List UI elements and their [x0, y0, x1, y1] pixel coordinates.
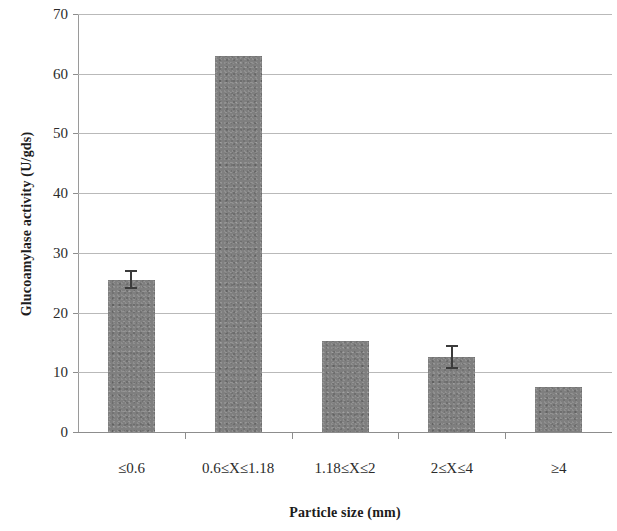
x-tick-label: ≤0.6 — [118, 460, 145, 477]
x-tick-label: 0.6≤X≤1.18 — [202, 460, 274, 477]
bar-chart-figure: Glucoamylase activity (U/gds) 0102030405… — [0, 0, 617, 531]
gridline — [78, 74, 612, 75]
y-tick-mark — [73, 74, 78, 75]
bar — [215, 56, 262, 432]
plot-area: 010203040506070 ≤0.60.6≤X≤1.181.18≤X≤22≤… — [78, 14, 612, 432]
y-tick-label: 60 — [6, 65, 68, 82]
error-bar-cap-top — [125, 270, 137, 272]
y-tick-mark — [73, 372, 78, 373]
y-tick-label: 50 — [6, 125, 68, 142]
bar — [322, 341, 369, 432]
y-tick-mark — [73, 14, 78, 15]
x-tick-label: 2≤X≤4 — [431, 460, 473, 477]
bar — [108, 280, 155, 432]
y-tick-mark — [73, 133, 78, 134]
y-tick-label: 0 — [6, 424, 68, 441]
gridline — [78, 193, 612, 194]
x-tick-label: 1.18≤X≤2 — [314, 460, 375, 477]
gridline — [78, 133, 612, 134]
y-tick-mark — [73, 313, 78, 314]
error-bar-stem — [451, 345, 453, 369]
error-bar-cap-top — [446, 345, 458, 347]
gridline — [78, 14, 612, 15]
y-tick-mark — [73, 193, 78, 194]
y-tick-label: 40 — [6, 185, 68, 202]
gridline — [78, 313, 612, 314]
y-tick-label: 10 — [6, 364, 68, 381]
gridline — [78, 253, 612, 254]
error-bar-cap-bottom — [446, 367, 458, 369]
x-tick-label: ≥4 — [551, 460, 567, 477]
bar — [535, 387, 582, 432]
x-tick-mark — [398, 432, 399, 439]
y-tick-mark — [73, 432, 78, 433]
x-axis-line — [78, 432, 612, 433]
x-axis-title: Particle size (mm) — [78, 503, 612, 523]
x-tick-mark — [505, 432, 506, 439]
x-tick-mark — [185, 432, 186, 439]
x-tick-mark — [292, 432, 293, 439]
error-bar-cap-bottom — [125, 287, 137, 289]
y-tick-label: 70 — [6, 6, 68, 23]
y-tick-mark — [73, 253, 78, 254]
y-tick-label: 30 — [6, 244, 68, 261]
y-tick-label: 20 — [6, 304, 68, 321]
y-axis-line — [78, 14, 79, 432]
